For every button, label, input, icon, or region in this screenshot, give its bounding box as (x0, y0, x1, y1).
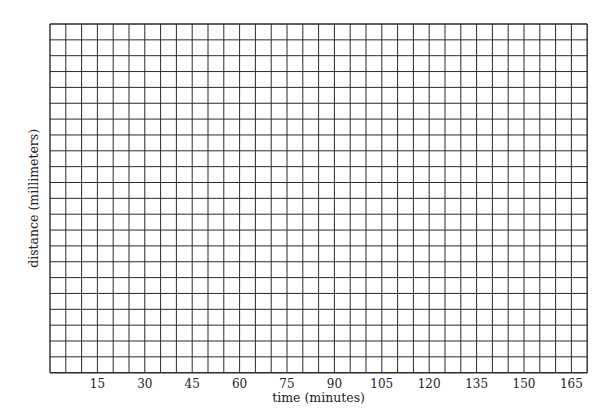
x-tick-label: 105 (370, 377, 393, 391)
x-axis-tick-labels: 153045607590105120135150165 (90, 377, 583, 391)
grid-lines (50, 24, 587, 373)
x-tick-label: 135 (465, 377, 488, 391)
x-axis-label: time (minutes) (272, 390, 365, 405)
y-axis-label: distance (millimeters) (26, 129, 41, 268)
x-tick-label: 150 (513, 377, 536, 391)
graph-grid-chart: 153045607590105120135150165 time (minute… (0, 0, 616, 415)
x-tick-label: 90 (327, 377, 342, 391)
x-tick-label: 60 (232, 377, 247, 391)
x-tick-label: 45 (185, 377, 200, 391)
x-tick-label: 15 (90, 377, 105, 391)
x-tick-label: 120 (418, 377, 441, 391)
x-tick-label: 30 (137, 377, 152, 391)
x-tick-label: 75 (279, 377, 294, 391)
x-tick-label: 165 (560, 377, 583, 391)
